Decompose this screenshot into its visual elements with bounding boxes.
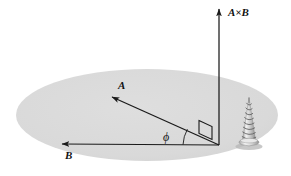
vector-a-label: A [117,79,125,91]
figure-canvas: A B A×B ϕ [0,0,291,176]
cross-product-figure: A B A×B ϕ [0,0,291,176]
vector-b-label: B [64,149,72,161]
angle-phi-label: ϕ [163,130,169,144]
vector-a-cross-b-label: A×B [227,6,249,18]
